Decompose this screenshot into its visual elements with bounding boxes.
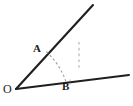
vertex-label-o: O (3, 84, 12, 95)
geometry-figure: O A B (0, 0, 133, 106)
point-label-a: A (33, 43, 41, 54)
point-label-b: B (62, 81, 69, 92)
